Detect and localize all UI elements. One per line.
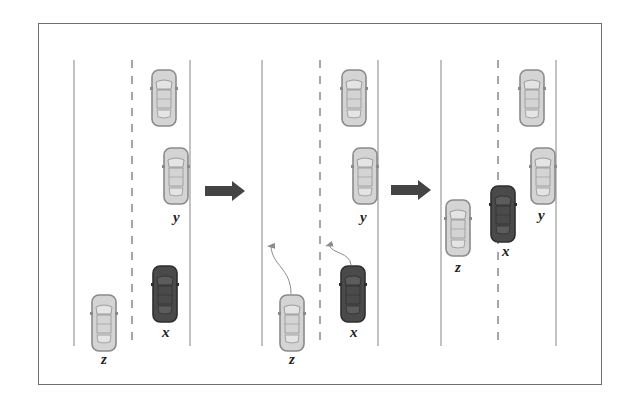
vehicle-label-x: x	[349, 324, 358, 340]
vehicle-z-stage-2	[278, 295, 306, 351]
lane-change-diagram: yxzyxzyxz	[0, 0, 634, 408]
vehicle-y-stage-3	[529, 148, 557, 204]
vehicle-y-stage-2	[351, 148, 379, 204]
vehicle-x-stage-3	[489, 186, 517, 242]
vehicle-label-y: y	[171, 209, 180, 225]
vehicle-y-stage-1	[162, 148, 190, 204]
vehicle-label-z: z	[100, 351, 107, 367]
vehicle-z-stage-3	[444, 200, 472, 256]
vehicle-label-y: y	[536, 207, 545, 223]
arrow-1-to-2-icon	[205, 181, 245, 201]
vehicle-x-stage-2	[339, 266, 367, 322]
vehicle-label-x: x	[501, 243, 510, 259]
vehicle-label-y: y	[358, 209, 367, 225]
vehicle-lead-stage-3	[518, 70, 546, 126]
arrow-2-to-3-icon	[391, 180, 431, 200]
vehicle-label-z: z	[454, 259, 461, 275]
vehicle-label-x: x	[161, 324, 170, 340]
trajectory-arrow-z	[271, 246, 291, 294]
trajectory-arrow-x	[329, 245, 351, 265]
vehicle-lead-stage-1	[150, 70, 178, 126]
vehicle-label-z: z	[288, 351, 295, 367]
vehicle-lead-stage-2	[340, 70, 368, 126]
vehicle-x-stage-1	[151, 266, 179, 322]
vehicle-z-stage-1	[90, 295, 118, 351]
